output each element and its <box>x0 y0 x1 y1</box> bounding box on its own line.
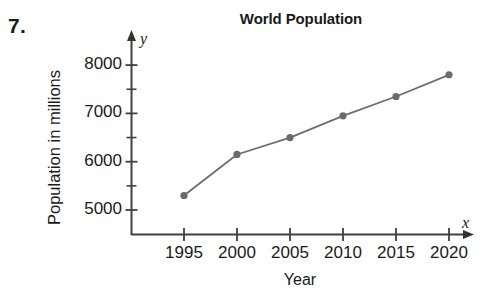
x-tick-label: 2020 <box>419 243 479 263</box>
x-tick-label: 2000 <box>207 243 267 263</box>
x-tick-label: 2005 <box>260 243 320 263</box>
x-tick-label: 1995 <box>154 243 214 263</box>
x-tick-labels: 199520002005201020152020 <box>0 0 483 301</box>
x-tick-label: 2015 <box>366 243 426 263</box>
chart-figure: 7. World Population Population in millio… <box>0 0 483 301</box>
x-tick-label: 2010 <box>313 243 373 263</box>
